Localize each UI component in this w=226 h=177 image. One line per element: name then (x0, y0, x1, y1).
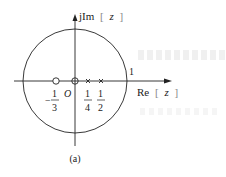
svg-text:2: 2 (98, 102, 103, 113)
svg-text:1: 1 (85, 88, 90, 99)
pole-zero-diagram: jIm [ z ] Re [ z ] 1 − 1 3 O 1 4 1 (0, 0, 226, 177)
pole-label-one-quarter: 1 4 (84, 88, 92, 113)
svg-text:3: 3 (52, 102, 57, 113)
svg-text:1: 1 (98, 88, 103, 99)
pole-label-one-half: 1 2 (97, 88, 105, 113)
unit-radius-label: 1 (129, 66, 134, 77)
svg-text:1: 1 (52, 88, 57, 99)
origin-label: O (64, 88, 71, 99)
svg-text:4: 4 (85, 102, 90, 113)
imag-axis-label: jIm [ z ] (78, 10, 123, 22)
zero-label-minus-one-third: − 1 3 (45, 88, 59, 113)
real-axis-arrow-icon (164, 79, 172, 84)
real-axis-label: Re [ z ] (137, 86, 178, 98)
figure-caption: (a) (69, 153, 80, 165)
svg-text:−: − (45, 95, 51, 106)
zero-marker-icon (53, 78, 59, 84)
imag-axis-arrow-icon (73, 14, 78, 21)
